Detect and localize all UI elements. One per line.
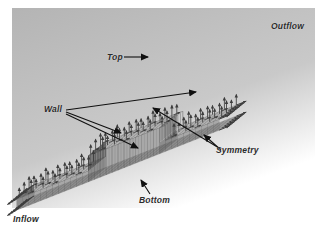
label-inflow: Inflow [13, 215, 39, 224]
label-outflow: Outflow [271, 22, 304, 31]
figure-canvas: Top Wall Symmetry Bottom Inflow Outflow [0, 0, 330, 238]
leader-bottom [141, 180, 150, 194]
label-bottom: Bottom [139, 196, 170, 205]
label-symmetry: Symmetry [216, 146, 259, 155]
leader-wall [66, 92, 196, 148]
label-wall: Wall [44, 105, 62, 114]
label-top: Top [107, 53, 123, 62]
leader-symmetry [153, 108, 221, 150]
